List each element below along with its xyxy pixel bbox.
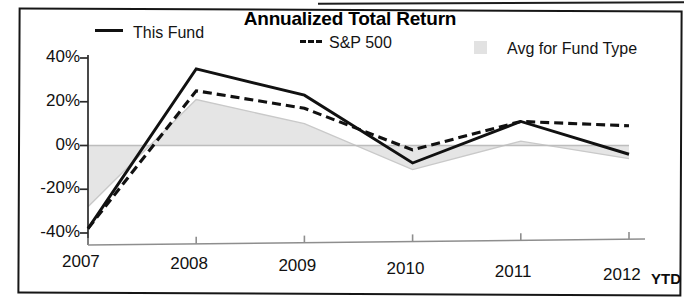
- series-line-sp-500: [88, 91, 629, 229]
- avg-for-fund-type-line: [88, 100, 629, 207]
- series-line-this-fund: [88, 69, 629, 229]
- x-axis-line: [88, 239, 645, 245]
- plot-area: [0, 0, 698, 305]
- annualized-total-return-chart: Annualized Total Return This Fund S&P 50…: [0, 0, 698, 305]
- avg-for-fund-type-area: [88, 100, 629, 207]
